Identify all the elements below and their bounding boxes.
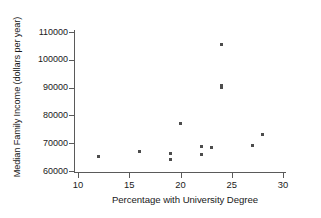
x-tick-label: 20 [161,180,201,190]
x-tick-mark [283,173,284,178]
x-tick-mark [232,173,233,178]
x-axis-title: Percentage with University Degree [60,194,310,205]
x-tick-mark [181,173,182,178]
data-point [97,155,100,158]
y-tick-mark [69,88,74,89]
x-tick-label: 15 [109,180,149,190]
data-point [169,152,172,155]
x-tick-mark [78,173,79,178]
data-point [251,144,254,147]
y-tick-mark [69,171,74,172]
scatter-plot-figure: 60000700008000090000100000110000 1015202… [0,0,321,218]
data-point [179,122,182,125]
data-point [220,86,223,89]
y-tick-mark [69,115,74,116]
y-tick-mark [69,32,74,33]
x-tick-label: 30 [263,180,303,190]
data-point [169,158,172,161]
data-point [200,145,203,148]
data-point [200,153,203,156]
y-tick-mark [69,143,74,144]
x-tick-label: 25 [212,180,252,190]
data-point [138,150,141,153]
plot-area: 60000700008000090000100000110000 1015202… [0,0,321,218]
data-point [261,133,264,136]
x-tick-label: 10 [58,180,98,190]
x-tick-mark [129,173,130,178]
y-axis-title: Median Family Income (dollars per year) [10,8,24,186]
y-tick-mark [69,60,74,61]
data-point [210,146,213,149]
y-axis-line [74,30,75,173]
data-point [220,43,223,46]
